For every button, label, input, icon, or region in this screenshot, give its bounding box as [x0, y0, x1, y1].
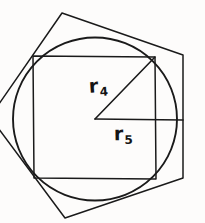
label-r4-subscript: 4: [99, 84, 108, 99]
figure-canvas: [0, 0, 205, 223]
label-r4-base: r: [88, 74, 99, 97]
geometry-figure: r4 r5: [0, 0, 205, 223]
label-r5: r5: [114, 124, 133, 146]
label-r5-base: r: [114, 122, 124, 144]
label-r4: r4: [88, 75, 108, 98]
label-r5-subscript: 5: [124, 133, 133, 147]
radius-line-r5: [95, 119, 183, 120]
